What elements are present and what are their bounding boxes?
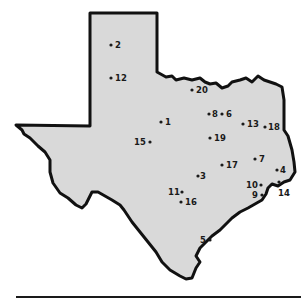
point-label: 12 <box>115 73 127 83</box>
point-label: 2 <box>115 40 121 50</box>
point-label: 1 <box>165 117 171 127</box>
point-label: 3 <box>200 171 206 181</box>
point-marker-icon <box>180 190 183 193</box>
point-label: 15 <box>134 137 146 147</box>
point-label: 20 <box>196 85 208 95</box>
point-label: 10 <box>246 180 258 190</box>
point-marker-icon <box>263 125 266 128</box>
texas-map: 2122011586191318177341091411165 <box>0 0 304 301</box>
point-label: 17 <box>226 160 238 170</box>
point-label: 4 <box>280 165 286 175</box>
point-label: 14 <box>278 188 290 198</box>
point-marker-icon <box>253 157 256 160</box>
point-marker-icon <box>148 140 151 143</box>
point-marker-icon <box>207 112 210 115</box>
point-label: 11 <box>168 187 180 197</box>
point-marker-icon <box>259 183 262 186</box>
point-marker-icon <box>208 136 211 139</box>
point-label: 16 <box>185 197 197 207</box>
point-label: 18 <box>268 122 280 132</box>
point-label: 6 <box>226 109 232 119</box>
point-marker-icon <box>179 200 182 203</box>
point-label: 7 <box>259 154 265 164</box>
point-marker-icon <box>190 88 193 91</box>
point-label: 5 <box>200 235 206 245</box>
point-marker-icon <box>159 120 162 123</box>
point-marker-icon <box>220 163 223 166</box>
point-label: 13 <box>247 119 259 129</box>
point-label: 8 <box>212 109 218 119</box>
point-marker-icon <box>208 238 211 241</box>
point-marker-icon <box>260 193 263 196</box>
point-marker-icon <box>220 112 223 115</box>
point-label: 9 <box>252 190 258 200</box>
point-marker-icon <box>241 122 244 125</box>
texas-outline <box>16 13 295 279</box>
bottom-rule <box>16 296 301 298</box>
point-marker-icon <box>275 168 278 171</box>
point-marker-icon <box>109 43 112 46</box>
point-marker-icon <box>277 180 280 183</box>
point-label: 19 <box>214 133 226 143</box>
point-marker-icon <box>109 76 112 79</box>
